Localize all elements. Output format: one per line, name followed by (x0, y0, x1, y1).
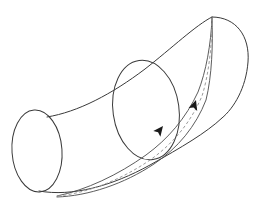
tube-geodesic-diagram: Curved tube with geodesic path (0, 0, 277, 207)
figure-root: Curved tube with geodesic path (0, 0, 277, 207)
tube-surface-fill (15, 17, 243, 194)
tube-body-group (15, 17, 243, 194)
